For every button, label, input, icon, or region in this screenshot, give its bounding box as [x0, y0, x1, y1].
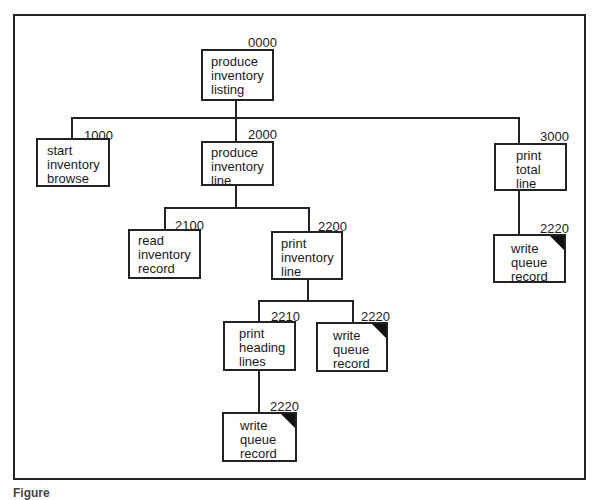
- module-print-heading-lines[interactable]: print heading lines: [223, 321, 296, 371]
- figure-caption: Figure: [13, 486, 50, 500]
- module-produce-inventory-listing[interactable]: produce inventory listing: [201, 49, 274, 101]
- connector: [258, 300, 260, 323]
- connector: [71, 117, 520, 119]
- library-module-marker-icon: [550, 236, 564, 250]
- module-write-queue-record-library[interactable]: write queue record: [493, 234, 566, 283]
- module-read-inventory-record[interactable]: read inventory record: [128, 229, 201, 279]
- module-write-queue-record-library[interactable]: write queue record: [316, 322, 388, 372]
- connector: [352, 300, 354, 323]
- connector: [258, 369, 260, 415]
- library-module-marker-icon: [372, 324, 386, 338]
- module-number: 2000: [248, 128, 277, 141]
- module-number: 0000: [248, 36, 277, 49]
- module-write-queue-record-library[interactable]: write queue record: [222, 412, 297, 462]
- connector: [307, 278, 309, 301]
- connector: [258, 300, 354, 302]
- connector: [164, 207, 166, 230]
- module-print-total-line[interactable]: print total line: [494, 143, 567, 191]
- module-start-inventory-browse[interactable]: start inventory browse: [36, 138, 110, 187]
- connector: [164, 207, 310, 209]
- connector: [235, 100, 237, 145]
- module-print-inventory-line[interactable]: print inventory line: [271, 231, 343, 280]
- module-produce-inventory-line[interactable]: produce inventory line: [201, 141, 274, 186]
- connector: [518, 190, 520, 234]
- library-module-marker-icon: [281, 414, 295, 428]
- connector: [518, 117, 520, 144]
- module-number: 3000: [540, 130, 569, 143]
- connector: [308, 207, 310, 232]
